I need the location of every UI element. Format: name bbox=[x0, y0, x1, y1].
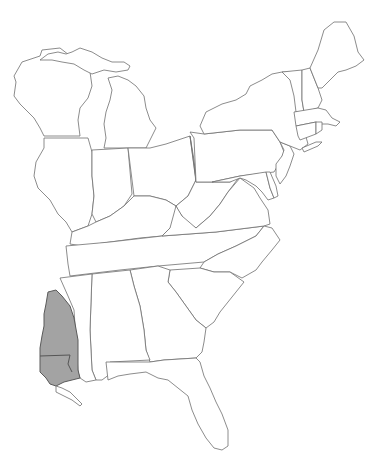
state-michigan-lower bbox=[104, 76, 156, 148]
state-illinois bbox=[34, 138, 94, 232]
state-maine bbox=[310, 22, 364, 88]
gulf-coast-marsh bbox=[56, 386, 82, 406]
state-rhode-island bbox=[316, 122, 322, 134]
eastern-us-map bbox=[0, 0, 379, 471]
state-florida bbox=[106, 358, 228, 450]
